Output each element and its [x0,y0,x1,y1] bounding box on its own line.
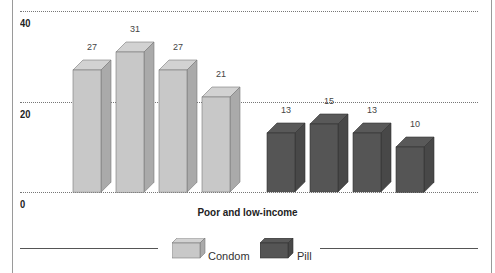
condom-legend-swatch [172,238,208,264]
bar-value-label: 13 [357,105,387,115]
frame-right-border [491,0,492,273]
y-tick-label: 40 [20,17,30,29]
gridline-40 [20,11,478,12]
condom-bar [159,60,197,192]
legend-label: Pill [297,250,312,262]
pill-bar [353,123,391,192]
y-tick-label: 20 [20,108,30,120]
bar-value-label: 31 [120,24,150,34]
pill-bar [310,114,348,192]
condom-bar [116,42,154,192]
pill-bar [396,137,434,192]
bar-value-label: 27 [77,42,107,52]
legend-rule-left [20,248,158,249]
x-axis-label: Poor and low-income [25,206,471,218]
bar-value-label: 15 [314,96,344,106]
frame-left-border [12,0,13,273]
legend-rule-right [320,248,478,249]
condom-bar [202,87,240,192]
pill-bar [267,123,305,192]
pill-legend-swatch [260,238,296,264]
bar-value-label: 13 [271,105,301,115]
bar-value-label: 10 [400,119,430,129]
legend-label: Condom [208,250,250,262]
bar-value-label: 21 [206,69,236,79]
condom-bar [73,60,111,192]
bar-value-label: 27 [163,42,193,52]
